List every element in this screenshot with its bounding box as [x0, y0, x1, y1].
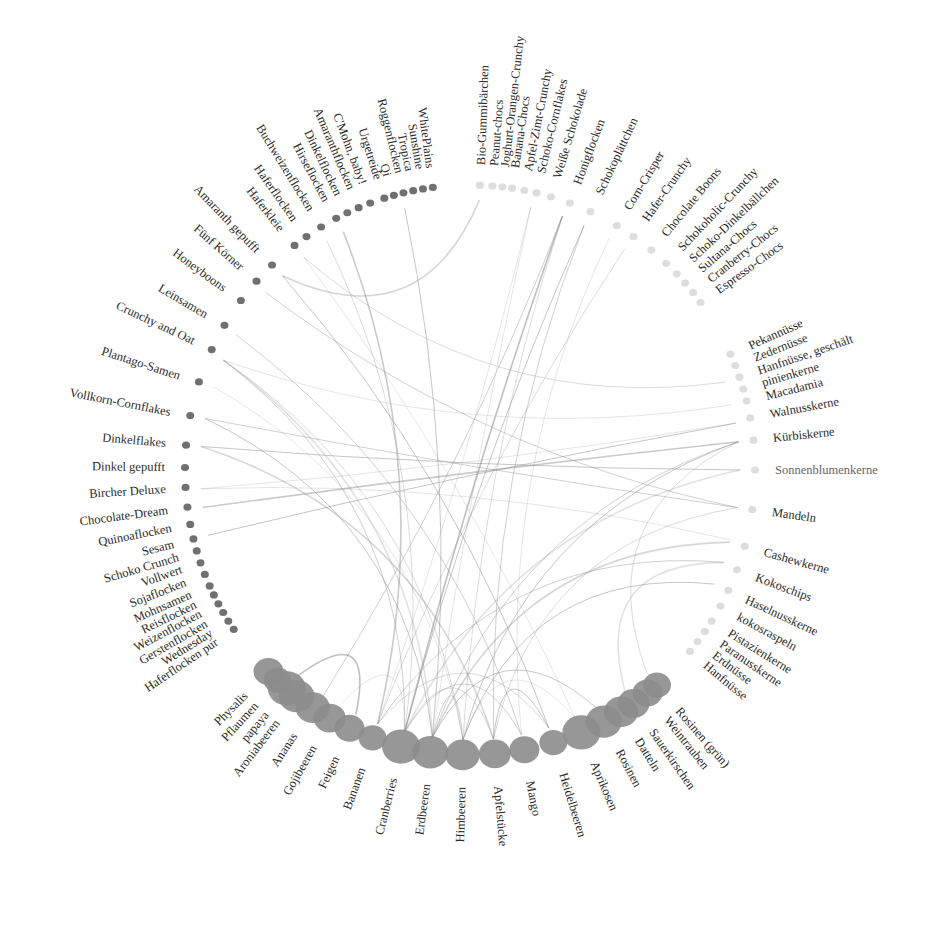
ingredient-icon — [547, 193, 555, 200]
ingredient-icon — [739, 385, 747, 392]
ingredient-icon — [629, 233, 637, 240]
ingredient-icon — [253, 278, 261, 285]
ingredient-icon — [193, 547, 201, 554]
ingredient-icon — [748, 506, 756, 513]
ingredient-icon — [689, 289, 697, 296]
ingredient-icon — [498, 183, 506, 190]
ingredient-icon — [197, 559, 205, 566]
ingredient-icon — [613, 222, 621, 229]
ingredient-icon — [724, 587, 732, 594]
ingredient-icon — [662, 260, 670, 267]
ingredient-icon — [195, 378, 203, 385]
ingredient-icon — [380, 195, 388, 202]
ingredient-icon — [219, 609, 227, 616]
ingredient-icon — [230, 626, 238, 633]
ingredient-icon — [429, 184, 437, 191]
ingredient-icon — [182, 442, 190, 449]
ingredient-icon — [224, 617, 232, 624]
ingredient-icon — [694, 638, 702, 645]
ingredient-icon — [562, 715, 600, 749]
ingredient-icon — [208, 346, 216, 353]
ingredient-icon — [673, 270, 681, 277]
ingredient-icon — [182, 484, 190, 491]
ingredient-label: Dinkel gepufft — [92, 460, 165, 475]
ingredient-icon — [206, 582, 214, 589]
chord-diagram: PekannüsseZedernüsseHanfnüsse, geschältp… — [0, 0, 929, 934]
ingredient-icon — [749, 437, 757, 444]
ingredient-icon — [343, 209, 351, 216]
ingredient-icon — [520, 187, 528, 194]
ingredient-icon — [317, 223, 325, 230]
ingredient-icon — [479, 740, 511, 769]
ingredient-icon — [210, 591, 218, 598]
ingredient-icon — [508, 185, 516, 192]
ingredient-label: Sonnenblumenkerne — [775, 463, 878, 477]
ingredient-icon — [332, 215, 340, 222]
ingredient-icon — [746, 414, 754, 421]
ingredient-icon — [686, 648, 694, 655]
ingredient-icon — [743, 397, 751, 404]
ingredient-icon — [390, 192, 398, 199]
ingredient-icon — [183, 504, 191, 511]
ingredient-icon — [566, 199, 574, 206]
ingredient-icon — [291, 242, 299, 249]
ingredient-icon — [708, 617, 716, 624]
ingredient-icon — [697, 299, 705, 306]
ingredient-icon — [741, 543, 749, 550]
ingredient-icon — [446, 740, 480, 771]
ingredient-icon — [701, 628, 709, 635]
ingredient-icon — [399, 189, 407, 196]
ingredient-icon — [189, 535, 197, 542]
ingredient-label: Himbeeren — [453, 787, 468, 843]
ingredient-icon — [366, 199, 374, 206]
ingredient-icon — [237, 297, 245, 304]
ingredient-icon — [533, 189, 541, 196]
ingredient-icon — [382, 729, 420, 763]
ingredient-icon — [186, 412, 194, 419]
ingredient-icon — [735, 374, 743, 381]
ingredient-icon — [355, 204, 363, 211]
ingredient-icon — [733, 566, 741, 573]
ingredient-icon — [220, 322, 228, 329]
ingredient-icon — [509, 736, 539, 763]
ingredient-icon — [214, 600, 222, 607]
ingredient-icon — [181, 464, 189, 471]
ingredient-icon — [586, 208, 594, 215]
ingredient-icon — [409, 187, 417, 194]
ingredient-icon — [186, 521, 194, 528]
ingredient-icon — [476, 182, 484, 189]
ingredient-icon — [253, 658, 283, 685]
ingredient-icon — [751, 466, 759, 473]
ingredient-icon — [419, 185, 427, 192]
ingredient-icon — [726, 350, 734, 357]
ingredient-icon — [268, 261, 276, 268]
ingredient-icon — [731, 362, 739, 369]
ingredient-icon — [303, 233, 311, 240]
ingredient-icon — [488, 182, 496, 189]
ingredient-icon — [681, 279, 689, 286]
ingredient-icon — [716, 602, 724, 609]
ingredient-icon — [647, 246, 655, 253]
ingredient-icon — [539, 730, 567, 755]
ingredient-icon — [201, 571, 209, 578]
